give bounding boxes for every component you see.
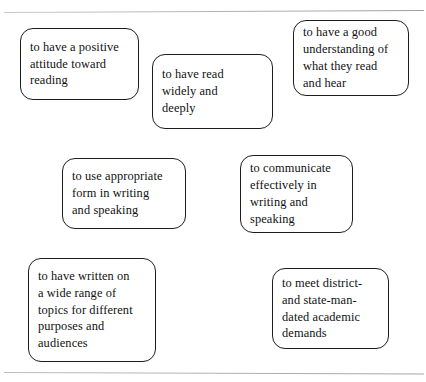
concept-box-read-widely: to have read widely and deeply bbox=[152, 54, 273, 129]
top-horizontal-rule bbox=[4, 10, 424, 13]
concept-box-label: to have a good understanding of what the… bbox=[294, 24, 408, 91]
concept-box-label: to use appropriate form in writing and s… bbox=[63, 168, 185, 219]
concept-box-label: to have written on a wide range of topic… bbox=[29, 268, 155, 352]
concept-box-positive-attitude: to have a positive attitude toward readi… bbox=[20, 28, 139, 100]
concept-box-label: to have read widely and deeply bbox=[153, 66, 272, 117]
concept-box-good-understanding: to have a good understanding of what the… bbox=[293, 20, 409, 96]
concept-box-appropriate-form: to use appropriate form in writing and s… bbox=[62, 158, 186, 229]
concept-box-label: to communicate effectively in writing an… bbox=[241, 160, 352, 227]
bottom-horizontal-rule bbox=[4, 372, 424, 375]
concept-box-written-wide-range: to have written on a wide range of topic… bbox=[28, 258, 156, 362]
concept-box-communicate-effectively: to communicate effectively in writing an… bbox=[240, 155, 353, 233]
concept-box-label: to meet district- and state-man- dated a… bbox=[273, 275, 388, 342]
concept-box-label: to have a positive attitude toward readi… bbox=[21, 39, 138, 90]
concept-box-mandated-demands: to meet district- and state-man- dated a… bbox=[272, 268, 389, 349]
diagram-page: to have a positive attitude toward readi… bbox=[0, 0, 426, 382]
